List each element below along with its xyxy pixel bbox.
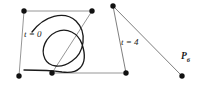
- control-point-p3: [49, 70, 54, 75]
- control-point-p2: [89, 8, 94, 13]
- control-point-markers: [16, 3, 184, 78]
- spline-figure: t = 0 t = 4 P6: [0, 0, 204, 92]
- spline-curve: [24, 15, 84, 72]
- control-polygon: [19, 6, 182, 76]
- control-point-p6: [179, 73, 184, 78]
- label-endpoint-p6: P6: [181, 52, 190, 63]
- control-point-p0: [16, 73, 21, 78]
- label-start-parameter: t = 0: [24, 30, 42, 39]
- control-point-p1: [21, 8, 26, 13]
- label-endpoint-subscript: 6: [187, 56, 190, 63]
- control-point-p4: [123, 70, 128, 75]
- control-point-p5: [110, 3, 115, 8]
- polygon-segment-p2-p3: [52, 11, 92, 73]
- spline-diagram-canvas: [0, 0, 204, 92]
- label-end-parameter: t = 4: [121, 38, 139, 47]
- polygon-segment-p0-p1: [19, 11, 24, 76]
- spline-curve-path: [24, 15, 84, 72]
